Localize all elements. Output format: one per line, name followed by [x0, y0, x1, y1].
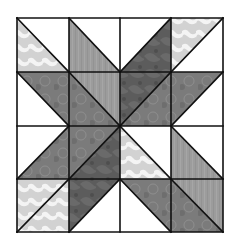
quilt-block	[0, 0, 231, 244]
